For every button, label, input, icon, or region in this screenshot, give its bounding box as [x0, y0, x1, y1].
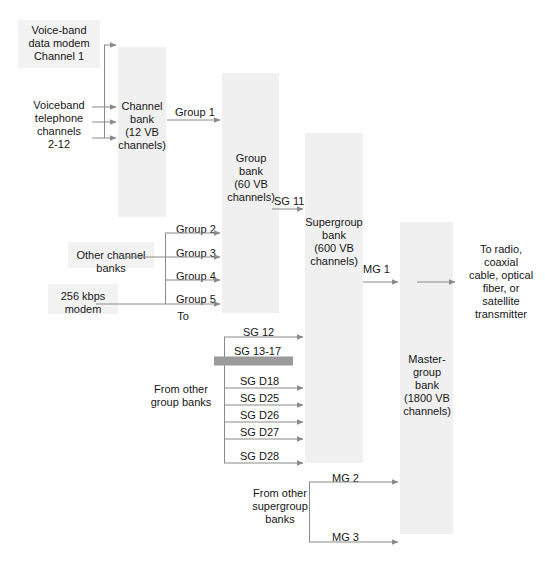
- link-group-4-label: Group 4: [176, 270, 236, 283]
- input-other-channel-banks-label: Other channel banks: [66, 249, 156, 275]
- input-from-other-supergroup-banks-label: From other supergroup banks: [239, 487, 321, 526]
- link-mg-3-label: MG 3: [332, 531, 372, 544]
- link-sg-d25-label: SG D25: [240, 392, 292, 405]
- link-sg-11-label: SG 11: [274, 195, 314, 208]
- link-group-5-label: Group 5: [176, 293, 236, 306]
- link-sg-12-label: SG 12: [243, 326, 291, 339]
- link-sg-d27-label: SG D27: [240, 426, 292, 439]
- supergroup-bank-block: [305, 133, 363, 463]
- link-mg-2-label: MG 2: [332, 472, 372, 485]
- channel-bank-label: Channel bank (12 VB channels): [110, 100, 174, 152]
- input-voiceband-telephone-label: Voiceband telephone channels 2-12: [18, 99, 100, 151]
- input-256kbps-modem-label: 256 kbps modem: [48, 290, 118, 316]
- link-sg-d18-label: SG D18: [240, 375, 292, 388]
- link-sg-13-17-label: SG 13-17: [234, 345, 294, 358]
- link-sg-d26-label: SG D26: [240, 409, 292, 422]
- supergroup-bank-label: Supergroup bank (600 VB channels): [296, 216, 372, 268]
- link-to-label: To: [163, 310, 203, 323]
- link-group-2-label: Group 2: [176, 223, 236, 236]
- link-group-1-label: Group 1: [175, 106, 235, 119]
- link-sg-d28-label: SG D28: [240, 450, 292, 463]
- mastergroup-bank-label: Master- group bank (1800 VB channels): [394, 353, 460, 418]
- input-from-other-group-banks-label: From other group banks: [140, 383, 222, 409]
- multiplexing-hierarchy-diagram: Channel bank (12 VB channels) Group bank…: [0, 0, 545, 570]
- link-group-3-label: Group 3: [176, 247, 236, 260]
- output-transmitter-label: To radio, coaxial cable, optical fiber, …: [460, 243, 542, 321]
- link-mg-1-label: MG 1: [363, 263, 403, 276]
- input-voiceband-data-modem-label: Voice-band data modem Channel 1: [16, 24, 102, 63]
